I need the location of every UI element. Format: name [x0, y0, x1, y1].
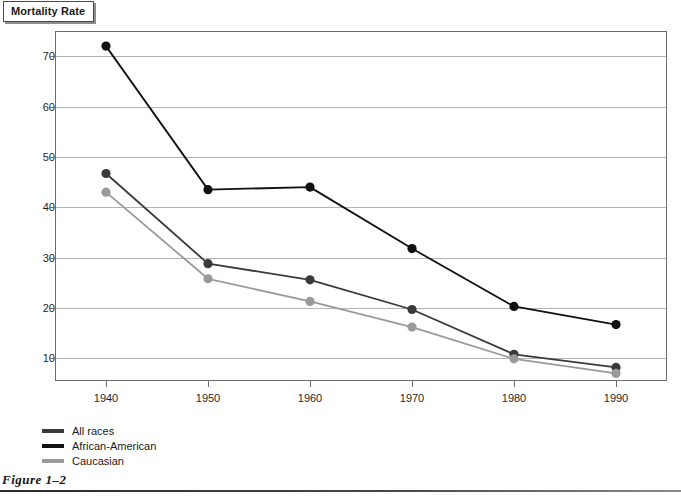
gridline — [56, 107, 666, 108]
x-axis-tick-label: 1960 — [298, 392, 322, 404]
legend-label: African-American — [72, 441, 156, 452]
legend-color-swatch — [42, 444, 64, 448]
x-axis-tick-mark — [616, 381, 617, 387]
y-axis-tick-mark — [50, 56, 55, 57]
figure-caption: Figure 1–2 — [2, 472, 67, 488]
chart-plot-area — [55, 31, 667, 381]
legend-item: African-American — [42, 439, 156, 453]
page-title: Mortality Rate — [3, 1, 94, 22]
legend-item: Caucasian — [42, 454, 156, 468]
x-axis-tick-mark — [106, 381, 107, 387]
legend-color-swatch — [42, 429, 64, 433]
y-axis-tick-mark — [50, 258, 55, 259]
x-axis-tick-label: 1950 — [196, 392, 220, 404]
x-axis-tick-mark — [208, 381, 209, 387]
y-axis-tick-mark — [50, 358, 55, 359]
x-axis-tick-mark — [310, 381, 311, 387]
y-axis-tick-mark — [50, 157, 55, 158]
legend-label: All races — [72, 426, 114, 437]
x-axis-tick-label: 1940 — [94, 392, 118, 404]
x-axis-tick-mark — [412, 381, 413, 387]
footer-rule — [0, 490, 681, 492]
gridline — [56, 258, 666, 259]
y-axis: 10203040506070 — [12, 31, 55, 381]
legend-color-swatch — [42, 459, 64, 463]
x-axis-tick-label: 1970 — [400, 392, 424, 404]
x-axis-tick-label: 1980 — [502, 392, 526, 404]
gridline — [56, 207, 666, 208]
gridline — [56, 308, 666, 309]
y-axis-tick-mark — [50, 107, 55, 108]
y-axis-tick-mark — [50, 308, 55, 309]
legend-label: Caucasian — [72, 456, 124, 467]
chart-legend: All racesAfrican-AmericanCaucasian — [42, 424, 156, 469]
y-axis-tick-mark — [50, 207, 55, 208]
x-axis-tick-label: 1990 — [604, 392, 628, 404]
gridline — [56, 56, 666, 57]
x-axis: 194019501960197019801990 — [55, 381, 667, 409]
x-axis-tick-mark — [514, 381, 515, 387]
legend-item: All races — [42, 424, 156, 438]
gridline — [56, 358, 666, 359]
gridline — [56, 157, 666, 158]
